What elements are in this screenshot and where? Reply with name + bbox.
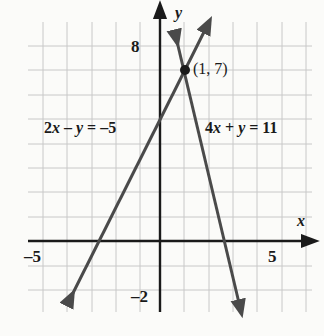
eq-right-variable-x: x: [213, 119, 221, 136]
eq-right-constant: = 11: [245, 119, 277, 136]
intersection-point-label: (1, 7): [193, 61, 228, 77]
eq-left-operator: –: [60, 119, 76, 136]
eq-left-constant: = –5: [83, 119, 116, 136]
eq-left-coefficient: 2: [44, 119, 52, 136]
coordinate-plane: [0, 0, 324, 336]
y-axis-tick-label-negative-2: –2: [131, 288, 148, 305]
y-axis-name-label: y: [175, 5, 182, 21]
x-axis-name-label: x: [297, 213, 305, 229]
graph-figure: 8 –2 –5 5 y x 2x – y = –5 4x + y = 11 (1…: [0, 0, 324, 336]
eq-right-operator: +: [221, 119, 238, 136]
y-axis-tick-label-8: 8: [131, 38, 140, 55]
eq-right-coefficient: 4: [205, 119, 213, 136]
equation-label-right: 4x + y = 11: [205, 120, 277, 136]
equation-label-left: 2x – y = –5: [44, 120, 116, 136]
x-axis-tick-label-negative-5: –5: [24, 248, 41, 265]
eq-left-variable-x: x: [52, 119, 60, 136]
grid-lines-vertical: [43, 22, 306, 312]
intersection-point-marker: [180, 65, 190, 75]
x-axis-tick-label-5: 5: [268, 248, 277, 265]
